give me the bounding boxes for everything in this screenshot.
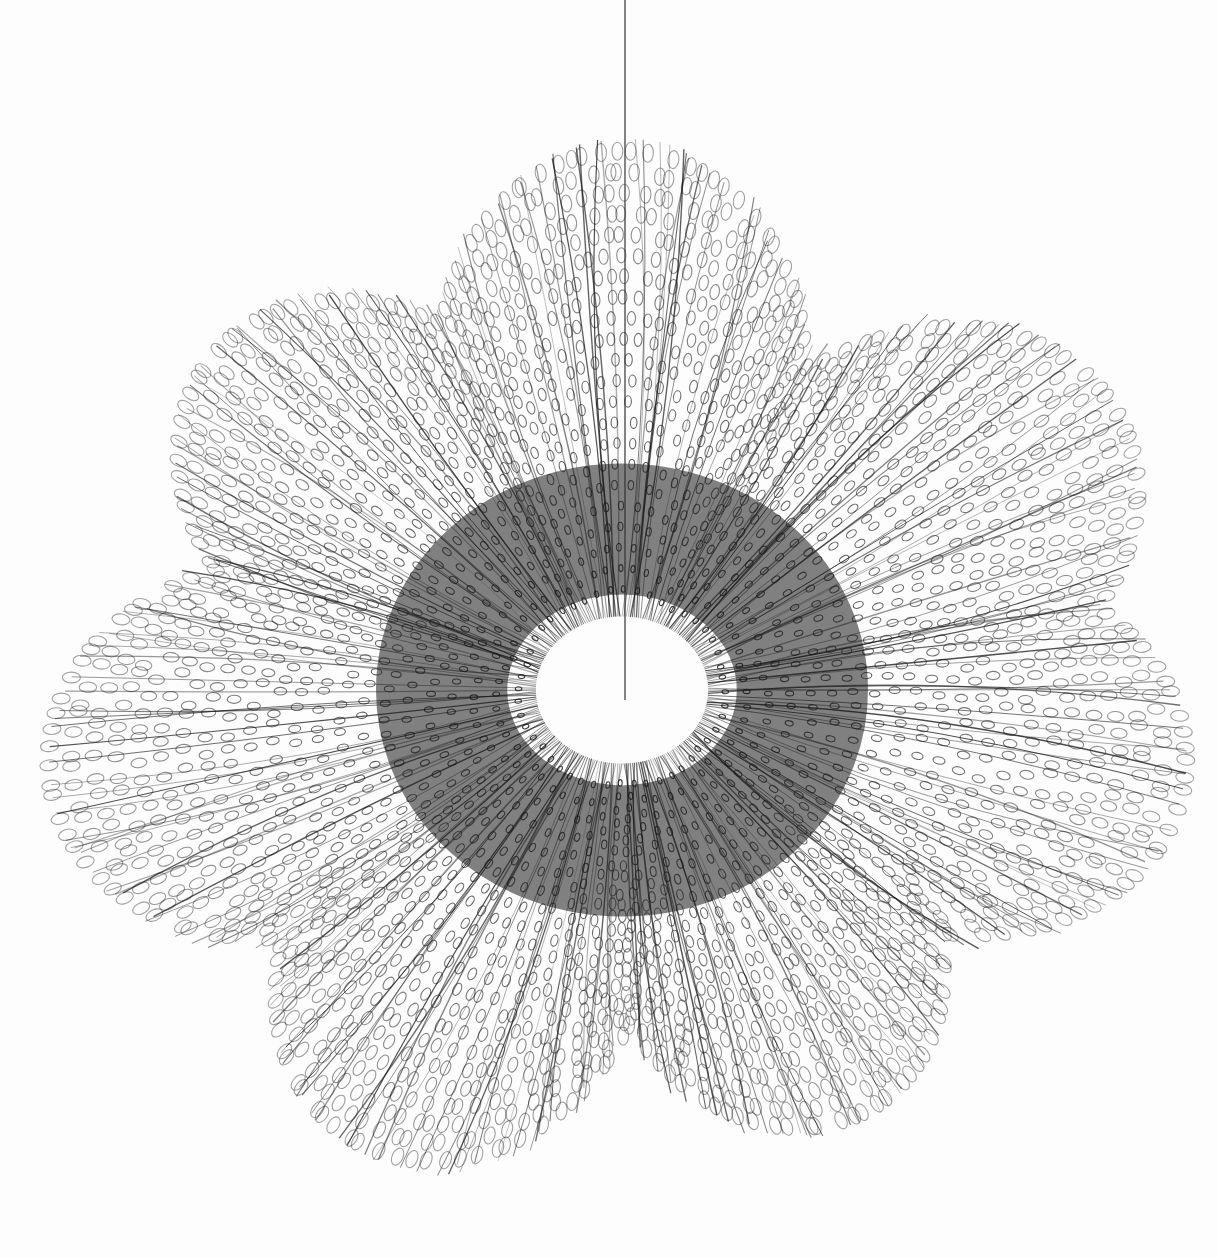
- center-hole: [540, 620, 704, 760]
- wire-sculpture-illustration: [0, 0, 1218, 1258]
- sculpture-photograph: Hanging looped-wire sculpture, black and…: [0, 0, 1218, 1258]
